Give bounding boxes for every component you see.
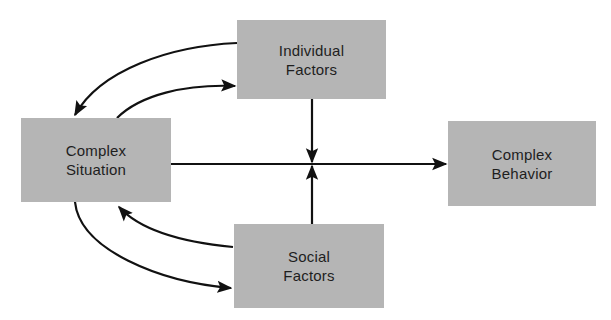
node-label-line2: Situation	[66, 160, 126, 179]
node-label-line1: Complex	[66, 141, 127, 160]
node-label-line2: Factors	[283, 266, 334, 285]
arrow-situation-to-individual	[117, 86, 235, 118]
node-label-line1: Complex	[492, 145, 553, 164]
node-individual-factors: Individual Factors	[237, 20, 386, 99]
arrow-individual-to-situation	[75, 43, 237, 115]
node-label-line2: Behavior	[492, 164, 553, 183]
node-complex-situation: Complex Situation	[21, 118, 171, 202]
node-label-line1: Social	[288, 247, 330, 266]
node-label-line1: Individual	[279, 41, 344, 60]
node-social-factors: Social Factors	[234, 224, 384, 308]
arrow-social-to-situation	[119, 207, 233, 247]
arrow-situation-to-social	[75, 202, 231, 288]
node-label-line2: Factors	[286, 60, 337, 79]
node-complex-behavior: Complex Behavior	[448, 121, 596, 206]
